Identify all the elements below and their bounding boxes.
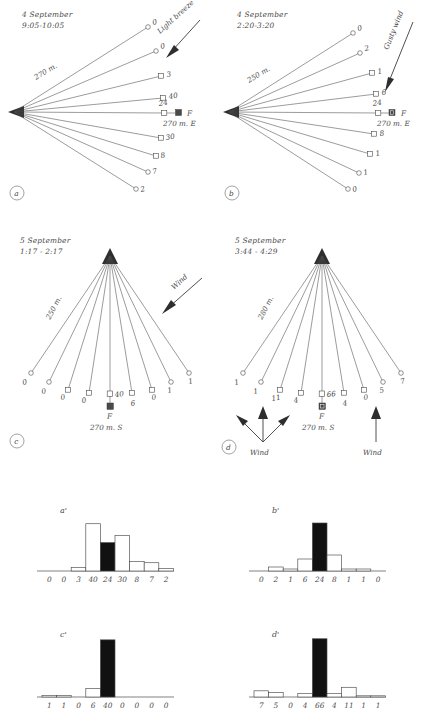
histogram-d-prime-bars	[254, 639, 385, 697]
panel-d-wind-fan: Wind	[236, 406, 290, 457]
histogram-tick-label: 7	[149, 575, 154, 584]
svg-text:2: 2	[138, 184, 146, 194]
panel-b-time: 2:20-3:20	[236, 21, 275, 30]
svg-text:1: 1	[167, 385, 173, 395]
histogram-b-prime-ticks: 0216248110	[259, 575, 381, 584]
histogram-tick-label: 30	[118, 575, 128, 584]
histogram-tick-label: 11	[344, 701, 353, 710]
panel-b-home-distance: 270 m. E	[376, 119, 410, 128]
histogram-b-prime-bars	[269, 523, 371, 571]
histogram-tick-label: 1	[62, 701, 67, 710]
histogram-tick-label: 1	[47, 701, 52, 710]
histogram-bar	[356, 696, 371, 697]
svg-text:0: 0	[21, 377, 28, 387]
svg-text:30: 30	[165, 132, 176, 142]
panel-b-home-label: F	[400, 109, 407, 118]
svg-text:11: 11	[271, 393, 282, 403]
svg-text:24: 24	[371, 98, 383, 108]
histogram-tick-label: 4	[302, 701, 308, 710]
panel-a-distance: 270 m.	[32, 61, 59, 82]
histogram-bar	[57, 696, 72, 697]
histogram-tick-label: 0	[120, 701, 125, 710]
histogram-bar	[342, 687, 357, 697]
panel-d-date: 5 September	[235, 236, 286, 245]
svg-text:0: 0	[356, 23, 363, 33]
histogram-bar	[356, 569, 371, 571]
histogram-tick-label: 24	[102, 575, 113, 584]
panel-c-time: 1:17 - 2:17	[20, 247, 63, 256]
histogram-bar	[342, 569, 357, 571]
histogram-tick-label: 1	[376, 701, 381, 710]
svg-text:2: 2	[363, 43, 371, 53]
figure-svg: 4 September 9:05-10:05	[0, 0, 431, 719]
histogram-tick-label: 7	[259, 701, 264, 710]
svg-text:3: 3	[166, 69, 172, 79]
svg-text:0: 0	[159, 41, 166, 51]
panel-b-home-marker	[389, 110, 395, 116]
histogram-bar	[269, 693, 284, 697]
histogram-tick-label: 2	[273, 575, 279, 584]
histogram-tick-label: 0	[376, 575, 381, 584]
histogram-bar	[269, 567, 284, 571]
histogram-tick-label: 0	[259, 575, 264, 584]
svg-text:24: 24	[157, 98, 169, 108]
panel-a-home-label: F	[186, 109, 193, 118]
panel-b-distance: 250 m.	[245, 64, 272, 85]
histogram-bar	[371, 696, 386, 697]
panel-d-label: d	[222, 440, 236, 454]
figure-root: 4 September 9:05-10:05	[0, 0, 431, 719]
panel-d-home-distance: 270 m. S	[301, 423, 334, 432]
svg-text:1: 1	[363, 167, 369, 177]
histogram-bar	[283, 569, 298, 571]
histogram-c-prime: c' 1106400000	[37, 630, 174, 710]
panel-d-home-marker	[319, 403, 325, 409]
histogram-b-prime: b' 0216248110	[249, 506, 386, 584]
panel-b-label: b	[225, 186, 239, 200]
svg-text:1: 1	[253, 386, 259, 396]
svg-text:4: 4	[292, 395, 299, 405]
histogram-tick-label: 40	[102, 701, 113, 710]
panel-c-distance: 250 m.	[43, 295, 63, 322]
svg-text:7: 7	[399, 376, 406, 386]
panel-d-time: 3:44 - 4:29	[235, 247, 278, 256]
svg-text:0: 0	[60, 392, 66, 402]
histogram-bar	[298, 559, 313, 571]
svg-text:0: 0	[363, 392, 369, 402]
panel-c-label: c	[10, 434, 24, 448]
histogram-tick-label: 0	[149, 701, 154, 710]
histogram-tick-label: 4	[331, 701, 337, 710]
panel-a-wind-label: Light breeze	[155, 0, 196, 36]
panel-d-wind-label-2: Wind	[363, 448, 382, 457]
histogram-tick-label: 0	[47, 575, 52, 584]
panel-b: 4 September 2:20-3:20	[223, 9, 413, 200]
histogram-tick-label: 0	[164, 701, 169, 710]
panel-a-home-distance: 270 m. E	[162, 119, 196, 128]
histogram-bar	[100, 543, 115, 571]
histogram-c-prime-ticks: 1106400000	[47, 701, 169, 710]
histogram-tick-label: 6	[303, 575, 308, 584]
histogram-bar	[100, 640, 115, 697]
panel-d-wind-label: Wind	[250, 448, 269, 457]
histogram-d-prime-label: d'	[272, 630, 279, 639]
panel-a-time: 9:05-10:05	[22, 21, 64, 30]
panel-a-label: a	[10, 186, 24, 200]
histogram-tick-label: 0	[288, 701, 293, 710]
histogram-tick-label: 24	[314, 575, 325, 584]
histogram-tick-label: 8	[135, 575, 140, 584]
panel-c: 5 September 1:17 - 2:17	[10, 236, 202, 448]
histogram-tick-label: 66	[315, 701, 325, 710]
histogram-tick-label: 0	[135, 701, 140, 710]
svg-text:c: c	[14, 437, 18, 446]
histogram-bar	[86, 688, 101, 697]
panel-b-rays	[229, 33, 378, 189]
histogram-bar	[159, 569, 174, 571]
histogram-tick-label: 3	[76, 575, 81, 584]
histogram-a-prime-bars	[71, 524, 173, 571]
svg-text:1: 1	[377, 66, 383, 76]
panel-a-rays	[14, 27, 164, 189]
histogram-bar	[312, 523, 327, 571]
histogram-a-prime-ticks: 003402430872	[47, 575, 169, 584]
histogram-bar	[298, 693, 313, 697]
svg-text:40: 40	[167, 91, 179, 101]
svg-text:a: a	[14, 189, 18, 198]
